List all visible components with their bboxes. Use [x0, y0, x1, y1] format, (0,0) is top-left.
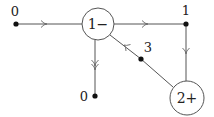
label-one-minus: 1−: [88, 17, 109, 31]
vertex-bottom-zero: [92, 93, 97, 98]
label-left-zero: 0: [11, 5, 19, 18]
label-two-plus: 2+: [177, 91, 198, 105]
vertex-left-zero: [13, 21, 18, 26]
label-three: 3: [144, 41, 152, 54]
label-bottom-zero: 0: [80, 90, 88, 103]
vertex-three: [138, 56, 143, 61]
edge-two-plus-to-three: [141, 59, 173, 87]
vertex-one: [183, 21, 188, 26]
label-top-right-one: 1: [182, 4, 190, 17]
